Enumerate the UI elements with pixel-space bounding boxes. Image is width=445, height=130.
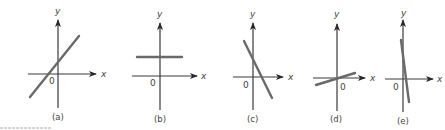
graph-line	[401, 40, 409, 102]
panel-caption: (e)	[397, 116, 409, 126]
linear-graphs-figure: y x 0 (a) y x 0 (b) y x 0 (c) y x 0 (d)	[0, 0, 445, 130]
panel-caption: (b)	[154, 114, 166, 124]
panel-caption: (d)	[330, 114, 342, 124]
panel-b: y x 0 (b)	[132, 9, 207, 124]
origin-label: 0	[243, 80, 249, 90]
panel-d: y x 0 (d)	[313, 9, 376, 124]
y-axis-label: y	[400, 8, 407, 18]
x-axis-label: x	[200, 71, 207, 81]
origin-label: 0	[49, 76, 55, 86]
panel-e: y x 0 (e)	[385, 8, 443, 126]
y-axis-label: y	[333, 9, 340, 19]
panel-c: y x 0 (c)	[233, 9, 294, 124]
panel-a: y x 0 (a)	[28, 6, 107, 122]
origin-label: 0	[150, 78, 156, 88]
y-axis-label: y	[54, 6, 61, 16]
panel-caption: (a)	[52, 112, 64, 122]
origin-label: 0	[340, 82, 346, 92]
x-axis-label: x	[100, 69, 107, 79]
x-axis-label: x	[369, 73, 376, 83]
origin-label: 0	[393, 82, 399, 92]
y-axis-label: y	[156, 9, 163, 19]
graph-line	[316, 73, 355, 85]
y-axis-label: y	[249, 9, 256, 19]
graph-line	[30, 36, 79, 97]
x-axis-label: x	[436, 74, 443, 84]
panel-caption: (c)	[247, 114, 258, 124]
x-axis-label: x	[287, 72, 294, 82]
